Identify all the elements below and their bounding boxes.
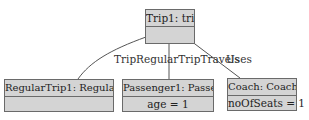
object-attributes: age = 1 — [123, 97, 213, 112]
object-passenger1[interactable]: Passenger1: Passenger age = 1 — [122, 79, 214, 112]
object-title: Coach: Coach — [228, 79, 296, 96]
object-trip1[interactable]: Trip1: trip — [145, 9, 195, 44]
link-label-uses: Uses — [226, 53, 252, 65]
object-title: Passenger1: Passenger — [123, 80, 213, 97]
object-title: RegularTrip1: RegularTrip — [5, 80, 113, 97]
object-title: Trip1: trip — [146, 10, 194, 27]
link-label-travels: TripRegularTripTravels — [114, 53, 240, 65]
object-coach[interactable]: Coach: Coach noOfSeats = 1 — [227, 78, 297, 111]
object-attributes: noOfSeats = 1 — [228, 96, 296, 111]
object-regulartrip1[interactable]: RegularTrip1: RegularTrip — [4, 79, 114, 112]
